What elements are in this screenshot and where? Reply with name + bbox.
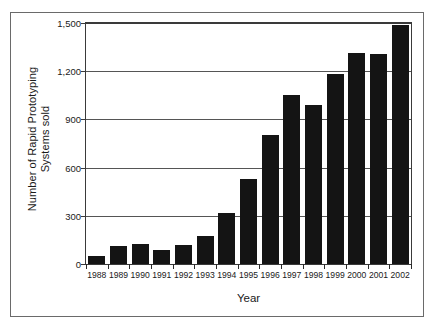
x-axis-tick-mark	[173, 264, 174, 269]
bar	[175, 245, 192, 264]
bars-layer	[86, 23, 411, 264]
bar	[132, 244, 149, 264]
bar	[327, 74, 344, 264]
x-axis-tick-label: 1996	[259, 270, 281, 280]
bar	[370, 54, 387, 264]
x-axis-tick-label: 1990	[129, 270, 151, 280]
x-axis-tick-mark	[346, 264, 347, 269]
x-axis-tick-mark	[281, 264, 282, 269]
x-axis-tick-label: 1988	[86, 270, 108, 280]
y-axis-tick-label: 0	[39, 259, 81, 270]
x-axis-tick-mark	[238, 264, 239, 269]
bar	[392, 25, 409, 264]
x-axis-tick-mark	[368, 264, 369, 269]
x-axis-tick-label: 1999	[324, 270, 346, 280]
y-axis-tick-label: 1,500	[39, 18, 81, 29]
x-axis-tick-mark	[86, 264, 87, 269]
x-axis-tick-label: 1995	[238, 270, 260, 280]
bar	[240, 179, 257, 264]
y-axis-tick-label: 600	[39, 162, 81, 173]
bar	[110, 246, 127, 264]
y-axis-tick-label: 900	[39, 114, 81, 125]
x-axis-tick-labels: 1988198919901991199219931994199519961997…	[86, 270, 411, 284]
x-axis-tick-label: 1989	[108, 270, 130, 280]
bar	[218, 213, 235, 264]
bar	[88, 256, 105, 264]
y-axis-tick-label: 300	[39, 210, 81, 221]
x-axis-tick-label: 1993	[194, 270, 216, 280]
bar	[305, 105, 322, 264]
y-axis-tick-label: 1,200	[39, 66, 81, 77]
bar	[262, 135, 279, 264]
chart-figure: Number of Rapid Prototyping Systems sold…	[0, 0, 441, 330]
x-axis-tick-label: 1997	[281, 270, 303, 280]
x-axis-tick-label: 1994	[216, 270, 238, 280]
x-axis-tick-label: 2000	[346, 270, 368, 280]
bar	[283, 95, 300, 265]
x-axis-tick-mark	[151, 264, 152, 269]
x-axis-tick-mark	[108, 264, 109, 269]
x-axis-tick-label: 2002	[389, 270, 411, 280]
x-axis-tick-mark	[194, 264, 195, 269]
x-axis-tick-mark	[389, 264, 390, 269]
x-axis-tick-mark	[324, 264, 325, 269]
x-axis-tick-label: 2001	[368, 270, 390, 280]
bar	[153, 250, 170, 264]
x-axis-tick-mark	[259, 264, 260, 269]
x-axis-tick-mark	[303, 264, 304, 269]
x-axis-tick-mark	[216, 264, 217, 269]
x-axis-tick-mark	[129, 264, 130, 269]
bar	[348, 53, 365, 264]
x-axis-ticks	[86, 264, 411, 269]
x-axis-title: Year	[85, 292, 412, 304]
bar	[197, 236, 214, 264]
y-axis-ticks: 03006009001,2001,500	[36, 22, 81, 265]
x-axis-tick-mark	[411, 264, 412, 269]
x-axis-tick-label: 1998	[303, 270, 325, 280]
x-axis-tick-label: 1991	[151, 270, 173, 280]
x-axis-tick-label: 1992	[173, 270, 195, 280]
